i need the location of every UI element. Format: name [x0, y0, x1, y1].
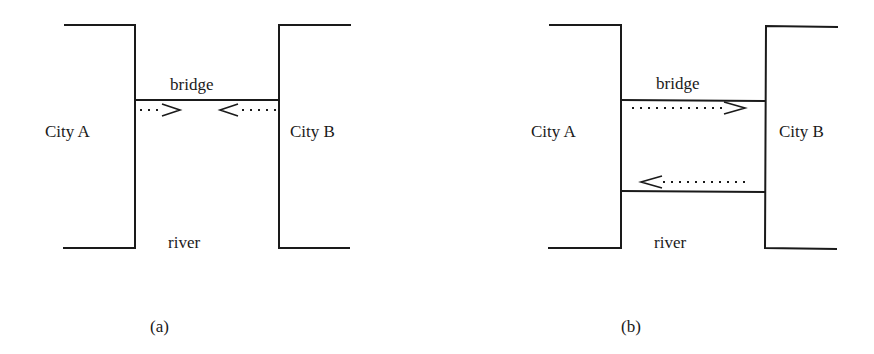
city-a-label: City A — [531, 122, 577, 141]
panel-b: bridge City A City B river (b) — [531, 25, 838, 336]
city-a-label: City A — [45, 122, 91, 141]
panel-a: bridge City A City B river (a) — [45, 25, 351, 336]
city-b-label: City B — [779, 122, 824, 141]
bridge-label: bridge — [656, 74, 699, 93]
lower-bridge — [621, 191, 765, 192]
city-b-label: City B — [290, 122, 335, 141]
arrowhead-left-icon — [220, 104, 238, 116]
arrowhead-right-icon — [724, 102, 745, 114]
river-label: river — [654, 233, 686, 252]
upper-bridge — [621, 100, 766, 101]
arrowhead-left-icon — [641, 176, 662, 188]
bridge-diagram: bridge City A City B river (a) bridge Ci… — [0, 0, 874, 354]
panel-caption: (b) — [621, 317, 641, 336]
panel-caption: (a) — [150, 317, 169, 336]
arrowhead-right-icon — [162, 104, 180, 116]
river-label: river — [168, 233, 200, 252]
bridge-label: bridge — [170, 75, 213, 94]
